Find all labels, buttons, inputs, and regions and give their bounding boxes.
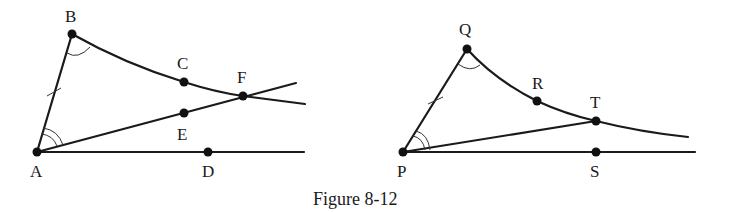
- label-d: D: [202, 162, 214, 181]
- point-q: [463, 45, 472, 54]
- left-figure: B C F E A D: [30, 7, 305, 181]
- label-e: E: [177, 125, 187, 144]
- label-s: S: [590, 162, 599, 181]
- label-f: F: [237, 68, 246, 87]
- point-e: [180, 109, 189, 118]
- point-b: [68, 30, 77, 39]
- label-q: Q: [459, 20, 471, 39]
- label-a: A: [30, 162, 43, 181]
- label-t: T: [590, 93, 601, 112]
- label-c: C: [177, 54, 188, 73]
- ray-aef: [37, 83, 296, 152]
- point-f: [239, 92, 248, 101]
- label-p: P: [397, 162, 406, 181]
- segment-pt: [403, 121, 596, 152]
- point-c: [180, 78, 189, 87]
- angle-arc-a-inner: [41, 134, 57, 146]
- label-b: B: [65, 7, 76, 26]
- point-r: [533, 97, 542, 106]
- figure-caption: Figure 8-12: [313, 189, 398, 209]
- point-d: [204, 148, 213, 157]
- angle-arc-q: [458, 64, 480, 69]
- label-r: R: [532, 74, 544, 93]
- curve-bcf: [72, 34, 305, 104]
- point-s: [592, 148, 601, 157]
- right-figure: Q R T P S: [397, 20, 695, 181]
- point-a: [33, 148, 42, 157]
- point-t: [592, 117, 601, 126]
- angle-arc-a-outer: [43, 128, 63, 145]
- angle-arc-b: [67, 47, 90, 55]
- point-p: [399, 148, 408, 157]
- figure-8-12: B C F E A D Q R T P S Figure: [0, 0, 731, 212]
